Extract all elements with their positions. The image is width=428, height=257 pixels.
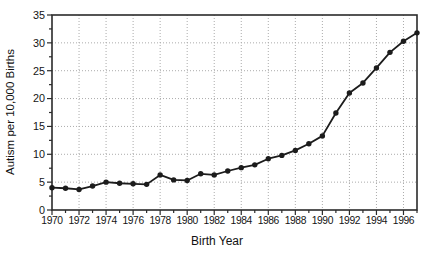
y-tick-label: 30 [33,37,45,49]
data-point [103,179,108,184]
data-point [414,30,419,35]
x-tick-label: 1990 [312,215,334,226]
y-tick-label: 20 [33,92,45,104]
data-point [157,172,162,177]
y-axis-title: Autism per 10,000 Births [4,49,16,175]
data-point [387,50,392,55]
data-point [184,178,189,183]
data-point [144,182,149,187]
x-tick-label: 1980 [177,215,199,226]
x-tick-label: 1976 [122,215,144,226]
data-point [90,183,95,188]
data-point [239,165,244,170]
data-point [374,65,379,70]
x-tick-label: 1978 [149,215,171,226]
data-point [320,133,325,138]
y-tick-label: 35 [33,9,45,21]
plot-area: 1970197219741976197819801982198419861988… [0,0,428,257]
x-axis-title: Birth Year [191,234,243,248]
data-point [347,90,352,95]
data-point [252,162,257,167]
x-tick-label: 1970 [41,215,63,226]
x-tick-label: 1996 [393,215,415,226]
y-tick-label: 10 [33,148,45,160]
y-tick-label: 0 [39,204,45,216]
x-tick-label: 1972 [68,215,90,226]
data-point [266,156,271,161]
x-tick-label: 1974 [95,215,117,226]
x-tick-label: 1992 [339,215,361,226]
data-point [401,38,406,43]
data-point [333,110,338,115]
data-point [279,153,284,158]
data-point [306,141,311,146]
data-point [130,181,135,186]
y-tick-label: 15 [33,120,45,132]
x-tick-label: 1982 [204,215,226,226]
data-point [117,181,122,186]
data-point [360,80,365,85]
x-tick-label: 1994 [366,215,388,226]
data-point [198,171,203,176]
y-tick-label: 25 [33,65,45,77]
data-point [225,168,230,173]
data-point [76,187,81,192]
data-point [293,148,298,153]
data-point [49,185,54,190]
x-tick-label: 1984 [231,215,253,226]
x-tick-label: 1988 [285,215,307,226]
data-point [171,177,176,182]
data-point [63,186,68,191]
autism-rate-line-chart: 1970197219741976197819801982198419861988… [0,0,428,257]
x-tick-label: 1986 [258,215,280,226]
y-tick-label: 5 [39,176,45,188]
trend-line [52,33,417,190]
data-point [212,172,217,177]
